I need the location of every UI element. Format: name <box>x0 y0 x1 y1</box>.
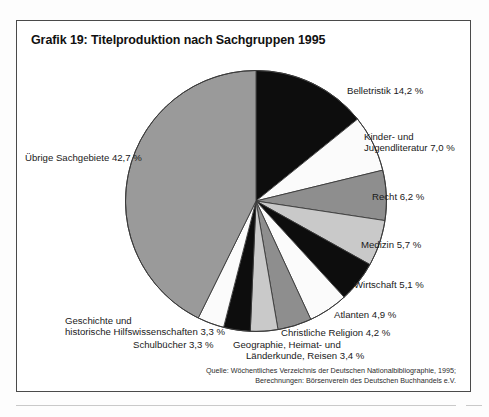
source-note-line-1: Quelle: Wöchentliches Verzeichnis der De… <box>206 366 456 375</box>
slice-label-kinderliteratur-line2: Jugendliteratur 7,0 % <box>364 142 455 154</box>
slice-label-atlanten: Atlanten 4,9 % <box>334 309 396 321</box>
slice-label-christliche-religion: Christliche Religion 4,2 % <box>281 327 390 339</box>
slice-label-geschichte-line1: Geschichte und <box>65 315 132 327</box>
slice-label-medizin: Medizin 5,7 % <box>361 239 421 251</box>
source-note-line-2: Berechnungen: Börsenverein des Deutschen… <box>255 376 456 385</box>
slice-label-geschichte-line2: historische Hilfswissenschaften 3,3 % <box>65 326 225 338</box>
figure-frame: Grafik 19: Titelproduktion nach Sachgrup… <box>16 20 471 392</box>
figure-page: Grafik 19: Titelproduktion nach Sachgrup… <box>0 0 489 417</box>
slice-label-wirtschaft: Wirtschaft 5,1 % <box>354 279 424 291</box>
slice-label-belletristik: Belletristik 14,2 % <box>347 85 423 97</box>
slice-label-uebrige-sachgebiete: Übrige Sachgebiete 42,7 % <box>25 152 142 164</box>
slice-label-kinderliteratur-line1: Kinder- und <box>364 131 414 143</box>
page-divider <box>16 405 456 406</box>
slice-label-schulbuecher: Schulbücher 3,3 % <box>133 339 214 351</box>
slice-label-geographie-line1: Geographie, Heimat- und <box>233 339 341 351</box>
slice-label-geographie-line2: Länderkunde, Reisen 3,4 % <box>246 350 364 362</box>
page-divider-tail <box>466 405 482 406</box>
pie-chart-svg <box>123 68 389 334</box>
slice-label-recht: Recht 6,2 % <box>372 191 424 203</box>
